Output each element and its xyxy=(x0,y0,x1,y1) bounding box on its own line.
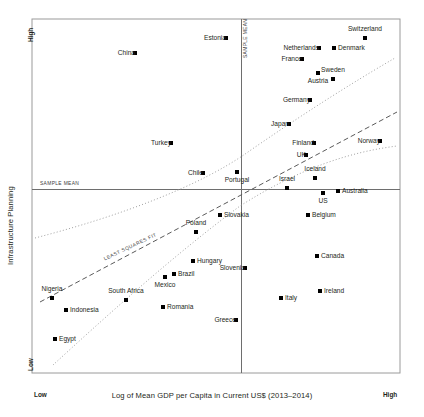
scatter-plot-figure: Log of Mean GDP per Capita in Current US… xyxy=(0,0,424,417)
data-point xyxy=(163,275,167,279)
data-point xyxy=(172,272,176,276)
data-point xyxy=(50,296,54,300)
data-point-label: Slovakia xyxy=(224,212,249,219)
x-axis-low-label: Low xyxy=(34,391,47,398)
data-point xyxy=(218,213,222,217)
data-point-label: Indonesia xyxy=(70,307,99,314)
data-point-label: Germany xyxy=(283,97,310,104)
data-point-label: Portugal xyxy=(225,177,250,184)
data-point-label: Turkey xyxy=(151,140,171,147)
data-point-label: UK xyxy=(297,152,306,159)
confidence-band-upper-curve xyxy=(35,58,395,238)
data-point-label: Italy xyxy=(285,295,297,302)
data-point xyxy=(332,46,336,50)
data-point xyxy=(235,170,239,174)
data-point-label: Estonia xyxy=(204,35,226,42)
data-point-label: Sweden xyxy=(321,67,345,74)
data-point-label: Norway xyxy=(358,138,380,145)
data-point-label: Egypt xyxy=(59,336,76,343)
data-point-label: Ireland xyxy=(324,288,344,295)
y-axis-low-label: Low xyxy=(27,358,34,371)
data-point-label: South Africa xyxy=(108,288,144,295)
data-point-label: Chile xyxy=(188,170,203,177)
data-point xyxy=(53,337,57,341)
sample-mean-vertical-label: SAMPLE MEAN xyxy=(243,19,248,58)
data-point-label: Greece xyxy=(214,317,236,324)
data-point-label: Denmark xyxy=(338,45,365,52)
data-point-label: Israel xyxy=(279,176,295,183)
data-point xyxy=(321,191,325,195)
data-point xyxy=(363,36,367,40)
data-point xyxy=(161,305,165,309)
data-point xyxy=(315,254,319,258)
sample-mean-horizontal-label: SAMPLE MEAN xyxy=(40,181,79,186)
data-point xyxy=(331,77,335,81)
data-point xyxy=(336,189,340,193)
data-point-label: Hungary xyxy=(197,258,222,265)
plot-canvas xyxy=(0,0,424,417)
y-axis-title: Infrastructure Planning xyxy=(6,186,15,265)
least-squares-fit-line xyxy=(40,112,397,302)
data-point-label: Australia xyxy=(342,188,368,195)
data-point-label: Poland xyxy=(186,220,207,227)
data-point xyxy=(318,289,322,293)
data-point-label: Switzerland xyxy=(348,26,382,33)
data-point-label: Iceland xyxy=(304,166,325,173)
data-point xyxy=(306,213,310,217)
data-point-label: US xyxy=(318,198,327,205)
x-axis-high-label: High xyxy=(383,391,397,398)
x-axis-title: Log of Mean GDP per Capita in Current US… xyxy=(0,391,424,400)
data-point xyxy=(285,186,289,190)
data-point-label: Mexico xyxy=(155,282,176,289)
data-point-label: Slovenia xyxy=(220,265,245,272)
data-point xyxy=(64,308,68,312)
data-point-label: China xyxy=(118,50,135,57)
data-point-label: Romania xyxy=(167,304,193,311)
data-point-label: Japan xyxy=(271,121,289,128)
data-point-label: Austria xyxy=(308,78,329,85)
data-point xyxy=(194,230,198,234)
data-point xyxy=(316,71,320,75)
data-point-label: France xyxy=(281,56,302,63)
data-point-label: Finland xyxy=(292,140,314,147)
data-point-label: Netherlands xyxy=(283,45,319,52)
data-point-label: Brazil xyxy=(178,271,195,278)
y-axis-high-label: High xyxy=(27,28,34,42)
data-point-label: Belgium xyxy=(312,212,336,219)
data-point xyxy=(279,296,283,300)
data-point xyxy=(124,298,128,302)
data-point xyxy=(191,259,195,263)
data-point xyxy=(313,176,317,180)
data-point-label: Nigeria xyxy=(42,286,63,293)
data-point-label: Canada xyxy=(321,253,344,260)
